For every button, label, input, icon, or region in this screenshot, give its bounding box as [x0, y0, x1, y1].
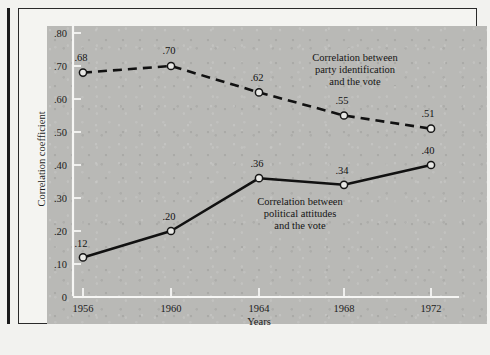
- figure-page: .80 .70 .60 .50 .40 .30 .20 .10 0 Correl…: [0, 0, 490, 355]
- x-tick-label-1968: 1968: [334, 303, 355, 314]
- annotation-political-attitudes: Correlation between political attitudes …: [257, 196, 343, 231]
- annotation-attitudes-line-3: and the vote: [274, 220, 326, 231]
- y-tick-label-040: .40: [54, 160, 67, 171]
- data-point-attitudes-1956: [79, 254, 86, 261]
- annotation-party-line-3: and the vote: [329, 76, 381, 87]
- data-label-attitudes-1972: .40: [421, 145, 434, 156]
- series-political-attitudes: .12 .20 .36 .34 .40: [74, 145, 434, 261]
- data-label-party-1960: .70: [162, 45, 175, 56]
- data-label-attitudes-1968: .34: [335, 165, 349, 176]
- y-tick-label-050: .50: [54, 127, 67, 138]
- data-label-attitudes-1960: .20: [162, 211, 175, 222]
- data-point-party-1960: [167, 62, 174, 69]
- annotation-party-identification: Correlation between party identification…: [312, 52, 398, 87]
- y-tick-label-010: .10: [54, 259, 67, 270]
- x-tick-label-1960: 1960: [161, 303, 182, 314]
- y-axis: .80 .70 .60 .50 .40 .30 .20 .10 0 Correl…: [36, 23, 81, 303]
- data-point-party-1972: [427, 125, 434, 132]
- page-edge-rule: [7, 8, 10, 324]
- x-tick-label-1956: 1956: [73, 303, 94, 314]
- y-axis-title: Correlation coefficient: [36, 111, 47, 206]
- x-tick-label-1964: 1964: [249, 303, 271, 314]
- y-tick-label-000: 0: [62, 292, 67, 303]
- data-label-party-1964: .62: [250, 72, 263, 83]
- figure-frame: .80 .70 .60 .50 .40 .30 .20 .10 0 Correl…: [18, 8, 477, 324]
- y-tick-label-030: .30: [54, 193, 67, 204]
- data-point-party-1956: [79, 69, 86, 76]
- y-tick-label-070: .70: [54, 61, 67, 72]
- data-label-party-1968: .55: [335, 95, 348, 106]
- data-point-attitudes-1964: [255, 175, 262, 182]
- data-point-attitudes-1960: [167, 227, 174, 234]
- y-tick-label-020: .20: [54, 226, 67, 237]
- y-tick-label-060: .60: [54, 94, 67, 105]
- annotation-party-line-1: Correlation between: [312, 52, 398, 63]
- annotation-party-line-2: party identification: [315, 64, 396, 75]
- data-label-attitudes-1964: .36: [250, 158, 263, 169]
- y-tick-label-080: .80: [54, 28, 67, 39]
- annotation-attitudes-line-1: Correlation between: [257, 196, 343, 207]
- data-point-party-1964: [255, 89, 262, 96]
- x-axis-title: Years: [247, 316, 270, 325]
- data-point-party-1968: [340, 112, 347, 119]
- data-point-attitudes-1968: [340, 181, 347, 188]
- x-axis: 1956 1960 1964 1968 1972 Years: [73, 288, 460, 325]
- x-tick-label-1972: 1972: [421, 303, 442, 314]
- annotation-attitudes-line-2: political attitudes: [264, 208, 337, 219]
- data-label-party-1972: .51: [421, 108, 434, 119]
- line-chart: .80 .70 .60 .50 .40 .30 .20 .10 0 Correl…: [19, 9, 478, 325]
- data-label-attitudes-1956: .12: [74, 238, 87, 249]
- data-point-attitudes-1972: [427, 161, 434, 168]
- data-label-party-1956: .68: [74, 52, 87, 63]
